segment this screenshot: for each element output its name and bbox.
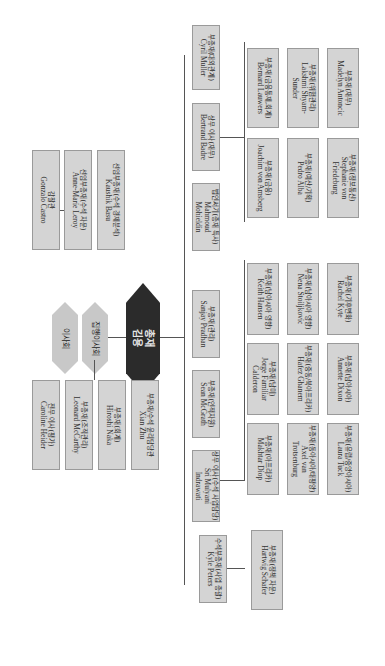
org-box-it: 부총재(정보통신) Stephanie von Friedeburg — [327, 138, 359, 218]
org-box-east-asia-pacific: 부총재(동아시아/태평양) Axel van Trotsenburg — [287, 423, 319, 495]
org-box-mena: 부총재(중동/북아프리카) Hafez Ghanem — [287, 343, 319, 415]
org-box-operations-svp: 수석부총재(사업 총괄) Kyle Peters — [199, 535, 227, 603]
org-box-integrity: 부총재(조직관리) Leonard McCarthy — [65, 380, 93, 470]
org-box-development-finance: 부총재(금융) Joachim von Amsberg — [247, 138, 279, 218]
president-role: 총재 — [144, 329, 155, 347]
connector — [227, 568, 245, 569]
org-box-region-2: 부총재(남아시아 영향) Nena Stoiljkovic — [287, 263, 319, 335]
executive-board-hexagon: 집행이사회 — [82, 302, 108, 374]
org-box-cfo: 상무 이사(재무) Bertrand Badre — [192, 103, 220, 171]
connector — [220, 480, 245, 481]
board-hexagon: 이사회 — [52, 302, 78, 374]
org-box-evaluation: 전무 이사(평가) Caroline Heider — [32, 380, 60, 470]
org-box-treasury: 부총재(재무) Madelyn Antoncic — [327, 48, 359, 128]
president-name: 김용 — [132, 329, 143, 347]
top-row-bus — [184, 55, 185, 585]
finance-bus — [244, 42, 245, 222]
connector — [108, 337, 126, 338]
org-box-accounting: 부총재(회계) Hiroshi Naka — [98, 380, 126, 470]
org-chart: 이사회 집행이사회 총재김용 감찰관 Gonzalo Castro 선임부총재(… — [0, 0, 385, 666]
connector — [94, 360, 95, 380]
org-box-governance: 부총재(관리) Sanjay Pradhan — [192, 290, 220, 358]
board-label: 이사회 — [60, 328, 70, 349]
org-box-africa: 부총재(아프리카) Makhtar Diop — [247, 423, 279, 495]
org-box-budget: 부총재(예산/기획) Pedro Alba — [287, 138, 319, 218]
org-box-risk: 부총재(위험관리) Lakshmi Shyam-Sunder — [287, 48, 319, 128]
org-box-ethics: 부총재/수석 윤리담당관 Xian Zhu — [131, 380, 159, 470]
org-box-human-resources: 부총재(인적자원) Sean McGrath — [192, 370, 220, 438]
org-box-south-asia: 부총재(남아시아) Annette Dixon — [327, 343, 359, 415]
org-box-corporate-secretary: 법인서기(총재 특사) Mahmoud Mohieldin — [192, 183, 220, 251]
org-box-inspector: 감찰관 Gonzalo Castro — [32, 150, 60, 250]
org-box-policy-advisor: 부총재(정책 자문) Hartwig Schafer — [251, 530, 283, 610]
org-box-external-affairs: 부총재(대외관계) Cyril Muller — [192, 25, 220, 90]
org-box-climate-change: 부총재(기후변화) Rachel Kyte — [327, 263, 359, 335]
org-box-region-1: 부총재(남아시아 영향) Keith Hansen — [247, 263, 279, 335]
org-box-latin-america: 부총재(남미) Jorge Familiar Calderon — [247, 343, 279, 415]
regional-bus — [244, 260, 245, 480]
president-hexagon: 총재김용 — [126, 283, 160, 393]
executive-board-label: 집행이사회 — [90, 321, 100, 356]
org-box-chief-economist: 선임부총재(수석 경제분석) Kaushik Basu — [97, 150, 125, 250]
org-box-general-counsel: 선임부총재(수석 자문) Anne-Marie Leroy — [64, 150, 92, 250]
connector — [220, 137, 245, 138]
connector — [160, 337, 185, 338]
org-box-coo: 상무 이사(수석 사업담당) Sri Mulyani Indrawati — [192, 450, 220, 522]
org-box-controller: 부총재(금융통제,회계) Bernard Lauwers — [247, 48, 279, 128]
org-box-europe-central-asia: 부총재(유럽/중앙아시아) Laura Tuck — [327, 423, 359, 495]
